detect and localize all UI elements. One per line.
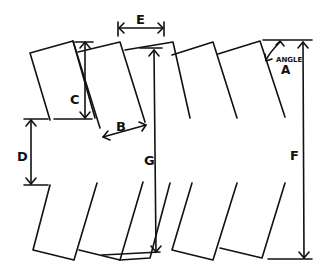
dimension-g: G bbox=[140, 48, 162, 252]
label-e: E bbox=[136, 12, 145, 27]
dimension-f: F bbox=[290, 42, 309, 258]
bottom-slats bbox=[33, 182, 312, 260]
label-a: A bbox=[281, 63, 291, 77]
dimension-e: E bbox=[118, 12, 164, 36]
label-b: B bbox=[116, 119, 126, 134]
dimension-d: D bbox=[17, 119, 48, 185]
dimension-b: B bbox=[103, 119, 146, 140]
label-f: F bbox=[290, 148, 299, 163]
dimension-diagram: C D B E G F bbox=[0, 0, 329, 278]
dimension-c: C bbox=[54, 42, 93, 119]
label-g: G bbox=[144, 153, 155, 168]
label-c: C bbox=[70, 92, 80, 107]
label-d: D bbox=[17, 149, 28, 164]
